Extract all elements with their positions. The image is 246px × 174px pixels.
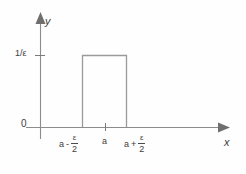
- figure-container: y x 1/ε 0 a - ε 2 a a + ε 2: [0, 0, 246, 174]
- x-tick-left-denominator: 2: [71, 145, 78, 154]
- x-tick-label-left-edge: a - ε 2: [59, 134, 78, 154]
- x-tick-left-base: a: [59, 140, 64, 149]
- x-tick-label-right-edge: a + ε 2: [124, 134, 145, 154]
- x-tick-right-base: a: [124, 140, 129, 149]
- origin-label: 0: [21, 119, 27, 129]
- axis-label-x: x: [224, 137, 230, 148]
- x-tick-right-numerator: ε: [139, 134, 145, 142]
- x-axis-arrowhead: [218, 123, 230, 133]
- axis-label-y: y: [45, 16, 51, 27]
- x-tick-right-fraction: ε 2: [138, 134, 145, 154]
- x-tick-left-operator: -: [66, 140, 69, 149]
- x-tick-center-base: a: [102, 137, 107, 146]
- x-tick-right-denominator: 2: [138, 145, 145, 154]
- y-axis-arrowhead: [36, 12, 46, 24]
- y-tick-label-peak: 1/ε: [15, 49, 27, 58]
- rectangular-pulse-curve: [83, 56, 127, 128]
- x-tick-left-numerator: ε: [72, 134, 78, 142]
- x-tick-label-center: a: [102, 137, 107, 146]
- x-tick-right-operator: +: [131, 140, 136, 149]
- plot-canvas: [0, 0, 246, 174]
- x-tick-left-fraction: ε 2: [71, 134, 78, 154]
